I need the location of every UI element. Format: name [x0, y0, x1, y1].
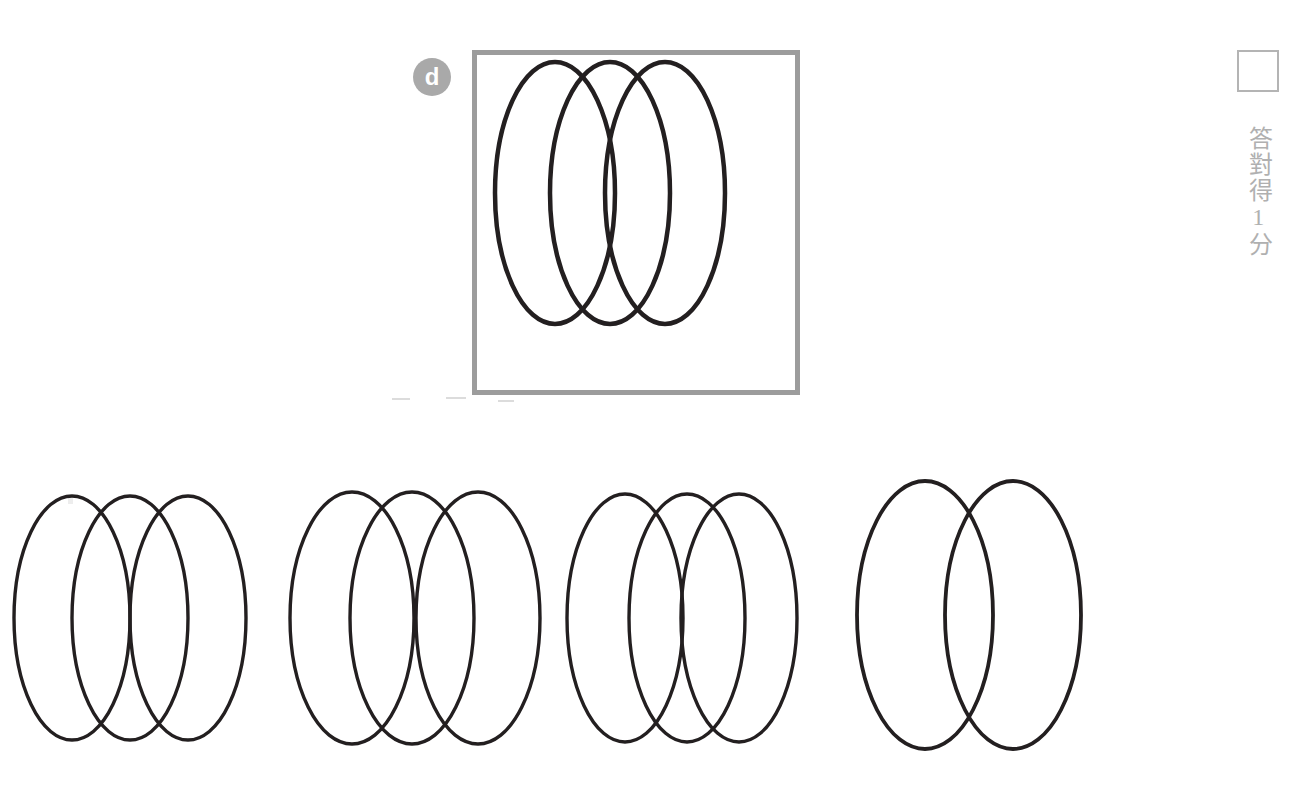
- option-2-ellipses: [288, 470, 608, 780]
- ellipse-1: [495, 62, 615, 324]
- answer-option-3[interactable]: [563, 470, 883, 780]
- score-label: 答對得1分: [1243, 102, 1274, 282]
- option-4-ellipses: [855, 470, 1175, 780]
- score-checkbox[interactable]: [1237, 50, 1279, 92]
- answer-options-row: [0, 470, 1314, 780]
- answer-option-1[interactable]: [6, 470, 326, 780]
- answer-option-4[interactable]: [855, 470, 1175, 780]
- target-ellipses: [477, 55, 795, 390]
- ellipse-2: [629, 494, 745, 742]
- score-area: 答對得1分: [1232, 50, 1284, 282]
- ellipse-2: [350, 492, 474, 744]
- option-3-ellipses: [563, 470, 883, 780]
- ellipse-3: [681, 494, 797, 742]
- worksheet-page: d 答對得1分: [0, 0, 1314, 788]
- ellipse-3: [605, 62, 725, 324]
- ellipse-1: [290, 492, 414, 744]
- ellipse-2: [945, 481, 1081, 749]
- question-badge-d: d: [413, 58, 451, 96]
- ellipse-3: [416, 492, 540, 744]
- scan-artifact: [446, 397, 466, 399]
- ellipse-1: [567, 494, 683, 742]
- scan-artifact: [498, 400, 514, 402]
- ellipse-1: [857, 481, 993, 749]
- target-pattern-panel: [472, 50, 800, 395]
- ellipse-2: [550, 62, 670, 324]
- answer-option-2[interactable]: [288, 470, 608, 780]
- scan-artifact: [392, 398, 410, 400]
- option-1-ellipses: [6, 470, 326, 780]
